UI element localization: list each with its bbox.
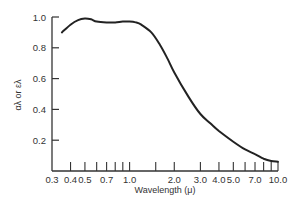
x-tick-label: 0.4 (64, 174, 77, 185)
x-tick-label: 3.0 (194, 174, 207, 185)
x-tick-label: 10.0 (269, 174, 288, 185)
data-line (62, 18, 278, 161)
x-axis-label: Wavelength (μ) (135, 185, 196, 195)
x-tick-label: 1.0 (123, 174, 136, 185)
y-tick-label: 0.6 (33, 73, 46, 84)
x-tick-label: 0.5 (78, 174, 91, 185)
y-axis-label: αλ or ελ (13, 79, 23, 111)
x-tick-label: 4.0 (212, 174, 225, 185)
y-tick-label: 0.8 (33, 42, 46, 53)
y-tick-label: 1.0 (33, 12, 46, 23)
x-tick-label: 2.0 (168, 174, 181, 185)
y-axis: 0.20.40.60.81.0 (33, 12, 59, 172)
x-tick-label: 0.3 (45, 174, 58, 185)
x-tick-label: 7.0 (248, 174, 261, 185)
x-tick-label: 0.7 (100, 174, 113, 185)
spectral-chart: 0.20.40.60.81.0 0.30.40.50.71.02.03.04.0… (0, 0, 305, 210)
x-tick-label: 5.0 (227, 174, 240, 185)
y-tick-label: 0.2 (33, 135, 46, 146)
x-axis: 0.30.40.50.71.02.03.04.05.07.010.0 (45, 162, 287, 185)
data-series (62, 18, 278, 161)
y-tick-label: 0.4 (33, 104, 46, 115)
